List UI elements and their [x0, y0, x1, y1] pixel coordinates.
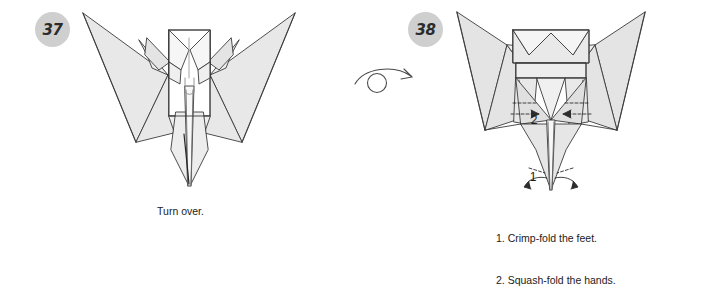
origami-figure-step-37 — [0, 0, 361, 200]
step-panel-37: 37 — [0, 0, 361, 243]
right-leg — [551, 124, 581, 190]
torso-panel — [516, 63, 586, 78]
annotation-label-2: 2 — [531, 113, 538, 127]
step-caption-38: 1. Crimp-fold the feet. 2. Squash-fold t… — [496, 203, 616, 290]
annotation-label-1: 1 — [530, 170, 537, 184]
step-panel-38: 38 — [361, 0, 722, 243]
caption-line-2: 2. Squash-fold the hands. — [496, 273, 616, 287]
caption-line-1: 1. Crimp-fold the feet. — [496, 231, 616, 245]
origami-figure-step-38: 2 1 — [361, 0, 722, 200]
step-caption-37: Turn over. — [0, 204, 361, 218]
